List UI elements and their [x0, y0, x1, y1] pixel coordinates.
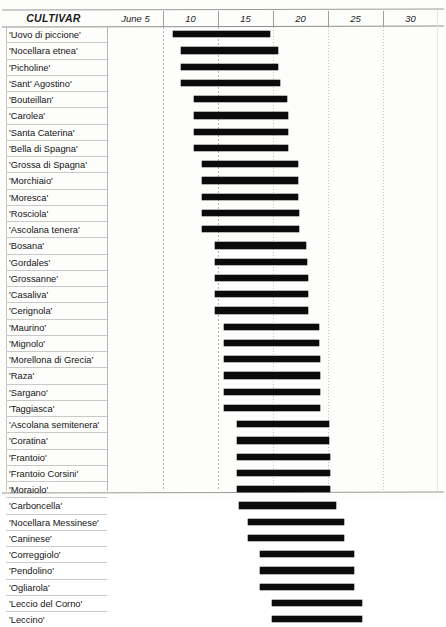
flowering-range-bar — [215, 307, 309, 313]
flowering-range-bar — [181, 47, 279, 53]
flowering-range-bar — [237, 421, 329, 427]
axis-tick-label-15: 15 — [218, 11, 273, 26]
cultivar-row-label: 'Uovo di piccione' — [6, 27, 107, 43]
cultivar-row-label: 'Frantoio' — [6, 450, 107, 466]
cultivar-row-label: 'Moraiolo' — [6, 482, 107, 498]
axis-column-separator — [273, 11, 274, 26]
chart-header: CULTIVAR June 51015202530 — [0, 11, 446, 26]
axis-column-separator — [383, 11, 384, 26]
flowering-range-bar — [202, 210, 300, 216]
flowering-range-bar — [224, 405, 321, 411]
cultivar-row-label: 'Sant' Agostino' — [6, 76, 107, 92]
flowering-range-bar — [202, 226, 300, 232]
cultivar-row-label: 'Leccio del Corno' — [6, 596, 107, 612]
cultivar-row-label: 'Carolea' — [6, 108, 107, 124]
axis-tick-label-10: 10 — [163, 11, 218, 26]
flowering-range-bar — [224, 340, 320, 346]
cultivar-row-label: 'Correggiolo' — [6, 547, 107, 563]
cultivar-row-label: 'Sargano' — [6, 385, 107, 401]
axis-column-separator — [218, 11, 219, 26]
cultivar-row-label: 'Morellona di Grecia' — [6, 352, 107, 368]
cultivar-row-label: 'Ogliarola' — [6, 580, 107, 596]
cultivar-row-label: 'Taggiasca' — [6, 401, 107, 417]
gridline-10 — [163, 27, 164, 491]
flowering-range-bar — [237, 470, 331, 476]
plot-right-edge — [437, 10, 438, 491]
cultivar-row-label: 'Casaliva' — [6, 287, 107, 303]
axis-tick-label-5: June 5 — [108, 11, 163, 26]
cultivar-row-label: 'Moresca' — [6, 190, 107, 206]
cultivar-row-label: 'Gordales' — [6, 255, 107, 271]
flowering-range-bar — [237, 437, 329, 443]
cultivar-row-label: 'Caninese' — [6, 531, 107, 547]
cultivar-row-label: 'Grossanne' — [6, 271, 107, 287]
axis-column-separator — [163, 11, 164, 26]
flowering-range-bar — [224, 372, 321, 378]
cultivar-row-label: 'Nocellara etnea' — [6, 43, 107, 59]
cultivar-row-label: 'Nocellara Messinese' — [6, 515, 107, 531]
flowering-range-bar — [224, 324, 320, 330]
flowering-range-bar — [260, 567, 355, 573]
flowering-range-bar — [215, 259, 307, 265]
flowering-range-bar — [202, 161, 299, 167]
flowering-range-bar — [215, 291, 309, 297]
flowering-range-bar — [173, 31, 270, 37]
axis-column-separator — [328, 11, 329, 26]
flowering-range-bar — [215, 242, 306, 248]
flowering-range-bar — [194, 129, 289, 135]
flowering-range-bar — [272, 616, 362, 622]
cultivar-row-label: 'Mignolo' — [6, 336, 107, 352]
axis-tick-label-25: 25 — [328, 11, 383, 26]
column-header-cultivar: CULTIVAR — [0, 11, 107, 26]
cultivar-row-label: 'Coratina' — [6, 433, 107, 449]
cultivar-row-label: 'Maurino' — [6, 320, 107, 336]
flowering-range-bar — [194, 145, 289, 151]
cultivar-row-label: 'Pendolino' — [6, 563, 107, 579]
cultivar-row-label: 'Grossa di Spagna' — [6, 157, 107, 173]
plot-area — [108, 27, 438, 491]
cultivar-row-label: 'Ascolana tenera' — [6, 222, 107, 238]
flowering-range-bar — [194, 96, 288, 102]
cultivar-row-label: 'Bouteillan' — [6, 92, 107, 108]
cultivar-row-label: 'Ascolana semitenera' — [6, 417, 107, 433]
cultivar-row-label: 'Rosciola' — [6, 206, 107, 222]
flowering-range-bar — [237, 486, 331, 492]
flowering-range-bar — [194, 112, 289, 118]
flowering-range-bar — [181, 80, 280, 86]
flowering-range-bar — [237, 454, 331, 460]
flowering-range-bar — [215, 275, 309, 281]
gridline-30 — [383, 27, 384, 491]
cultivar-row-label: 'Raza' — [6, 368, 107, 384]
cultivar-row-label: 'Bosana' — [6, 238, 107, 254]
cultivar-row-label: 'Frantoio Corsini' — [6, 466, 107, 482]
axis-tick-label-20: 20 — [273, 11, 328, 26]
flowering-range-bar — [224, 389, 321, 395]
flowering-range-bar — [224, 356, 321, 362]
cultivar-row-label: 'Carboncella' — [6, 498, 107, 514]
flowering-range-bar — [202, 194, 299, 200]
flowering-range-bar — [272, 600, 362, 606]
cultivar-row-label: 'Picholine' — [6, 60, 107, 76]
flowering-range-bar — [248, 535, 345, 541]
cultivar-row-label: 'Santa Caterina' — [6, 125, 107, 141]
flowering-range-bar — [248, 519, 345, 525]
flowering-range-bar — [239, 502, 336, 508]
cultivar-row-label: 'Bella di Spagna' — [6, 141, 107, 157]
axis-tick-label-30: 30 — [383, 11, 438, 26]
cultivar-row-label: 'Cerignola' — [6, 303, 107, 319]
cultivar-row-label: 'Leccino' — [6, 612, 107, 627]
flowering-range-bar — [260, 551, 355, 557]
flowering-range-bar — [260, 584, 355, 590]
flowering-range-bar — [181, 64, 279, 70]
flowering-range-bar — [202, 177, 299, 183]
cultivar-label-column: 'Uovo di piccione''Nocellara etnea''Pich… — [6, 27, 107, 627]
cultivar-row-label: 'Morchiaio' — [6, 173, 107, 189]
